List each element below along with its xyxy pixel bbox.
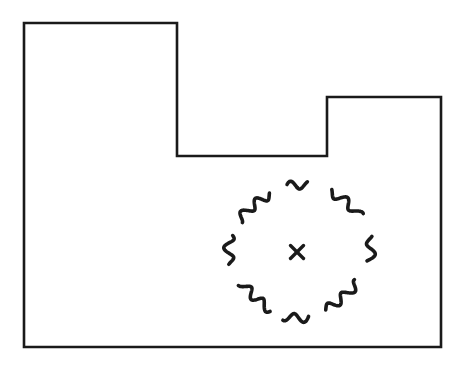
site-plan-drawing bbox=[0, 0, 461, 371]
drawing-background bbox=[0, 0, 461, 371]
